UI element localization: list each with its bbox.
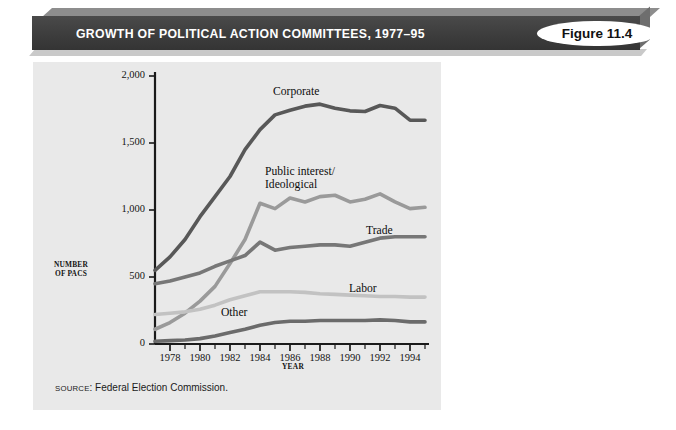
series-line-other: [155, 320, 425, 341]
series-label-labor: Labor: [349, 283, 377, 296]
figure-title-bar: GROWTH OF POLITICAL ACTION COMMITTEES, 1…: [32, 8, 660, 60]
x-axis-tick-label: 1994: [388, 352, 432, 363]
series-label-other: Other: [221, 307, 247, 320]
series-label-public-interest: Public interest/ Ideological: [265, 166, 335, 191]
title-bar-drop-shadow: [29, 49, 647, 56]
source-note-text: : Federal Election Commission.: [90, 382, 228, 393]
series-line-trade: [155, 237, 425, 284]
series-label-corporate: Corporate: [273, 86, 319, 99]
series-label-trade: Trade: [366, 225, 393, 238]
y-axis-tick-label: 1,000: [89, 203, 145, 214]
y-axis-tick-label: 1,500: [89, 136, 145, 147]
chart-panel: NUMBER OF PACS YEAR Corporate Public int…: [33, 62, 441, 410]
y-axis-tick-label: 500: [89, 270, 145, 281]
figure-number-badge: Figure 11.4: [537, 21, 657, 46]
page-title: GROWTH OF POLITICAL ACTION COMMITTEES, 1…: [76, 23, 467, 45]
y-axis-tick-label: 0: [89, 337, 145, 348]
figure-container: GROWTH OF POLITICAL ACTION COMMITTEES, 1…: [0, 0, 676, 430]
source-note-prefix: SOURCE: [55, 384, 90, 393]
series-label-public-interest-line-1: Public interest/: [265, 166, 335, 179]
y-axis-tick-label: 2,000: [89, 69, 145, 80]
series-label-public-interest-line-2: Ideological: [265, 179, 335, 192]
source-note: SOURCE: Federal Election Commission.: [55, 382, 228, 393]
